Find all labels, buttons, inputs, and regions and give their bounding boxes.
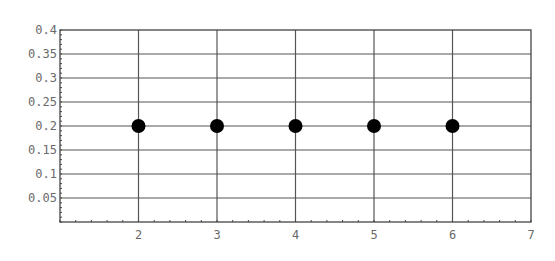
y-axis-tick-labels: 0.050.10.150.20.250.30.350.4 [28, 23, 57, 205]
scatter-chart: 234567 0.050.10.150.20.250.30.350.4 [0, 0, 555, 261]
y-tick-label: 0.25 [28, 95, 57, 109]
x-tick-label: 6 [449, 228, 456, 242]
y-tick-label: 0.35 [28, 47, 57, 61]
data-point [367, 119, 381, 133]
y-tick-label: 0.05 [28, 191, 57, 205]
y-tick-label: 0.1 [35, 167, 57, 181]
y-tick-label: 0.2 [35, 119, 57, 133]
y-tick-label: 0.4 [35, 23, 57, 37]
data-point [210, 119, 224, 133]
x-tick-label: 4 [292, 228, 299, 242]
x-tick-label: 3 [213, 228, 220, 242]
data-point [132, 119, 146, 133]
x-axis-tick-labels: 234567 [135, 228, 535, 242]
x-tick-label: 7 [527, 228, 534, 242]
y-tick-label: 0.15 [28, 143, 57, 157]
x-tick-label: 5 [370, 228, 377, 242]
data-point [289, 119, 303, 133]
x-tick-label: 2 [135, 228, 142, 242]
data-point [446, 119, 460, 133]
y-tick-label: 0.3 [35, 71, 57, 85]
